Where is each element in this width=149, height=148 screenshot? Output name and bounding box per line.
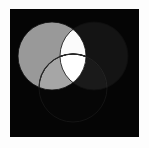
venn-diagram bbox=[10, 9, 139, 137]
venn-plot-panel bbox=[10, 9, 139, 137]
figure-canvas bbox=[0, 0, 149, 148]
